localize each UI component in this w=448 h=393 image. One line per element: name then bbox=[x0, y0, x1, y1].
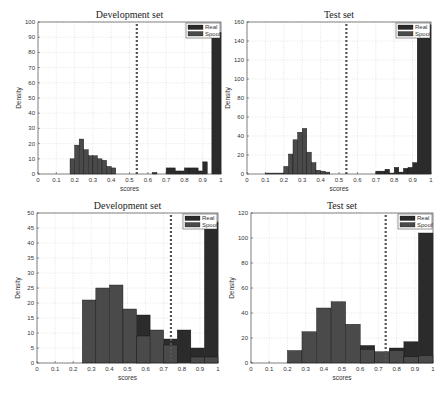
x-tick-label: 0.4 bbox=[316, 177, 325, 183]
histogram-bar bbox=[96, 288, 110, 363]
histogram-bar bbox=[287, 351, 302, 364]
legend-swatch-spoof bbox=[400, 223, 415, 228]
histogram-bar bbox=[403, 168, 408, 174]
legend-label-real: Real bbox=[202, 215, 214, 221]
x-tick-label: 0.4 bbox=[105, 366, 114, 372]
chart-top-right: 00.10.20.30.40.50.60.70.80.9102040608010… bbox=[224, 9, 433, 192]
histogram-bar bbox=[79, 139, 84, 174]
x-tick-label: 0.9 bbox=[408, 177, 417, 183]
x-tick-label: 0.3 bbox=[298, 177, 307, 183]
chart-bottom-left: 00.10.20.30.40.50.60.70.80.9105101520253… bbox=[14, 200, 220, 381]
x-tick-label: 0 bbox=[35, 366, 39, 372]
histogram-bar bbox=[413, 163, 418, 174]
y-tick-label: 140 bbox=[234, 38, 245, 44]
x-tick-label: 0.9 bbox=[199, 177, 208, 183]
x-tick-label: 0.4 bbox=[320, 366, 329, 372]
x-tick-label: 0.4 bbox=[107, 177, 116, 183]
x-tick-label: 0 bbox=[249, 366, 253, 372]
y-tick-label: 70 bbox=[28, 65, 35, 71]
x-tick-label: 0.7 bbox=[160, 366, 169, 372]
x-tick-label: 0.6 bbox=[356, 366, 365, 372]
histogram-bar bbox=[84, 150, 89, 174]
histogram-bar bbox=[307, 152, 312, 174]
y-tick-label: 40 bbox=[27, 240, 34, 246]
x-tick-label: 0.6 bbox=[141, 366, 150, 372]
x-tick-label: 0.1 bbox=[52, 177, 61, 183]
legend-swatch-real bbox=[400, 216, 415, 221]
x-tick-label: 1 bbox=[431, 366, 435, 372]
x-tick-label: 1 bbox=[429, 177, 433, 183]
legend-label-real: Real bbox=[205, 24, 217, 30]
legend-label-real: Real bbox=[417, 215, 429, 221]
x-axis-label: scores bbox=[332, 374, 352, 381]
y-tick-label: 60 bbox=[241, 285, 248, 291]
x-tick-label: 0.9 bbox=[411, 366, 420, 372]
x-tick-label: 0.8 bbox=[178, 366, 187, 372]
y-tick-label: 60 bbox=[28, 80, 35, 86]
histogram-bar bbox=[408, 167, 413, 174]
y-tick-label: 30 bbox=[28, 125, 35, 131]
y-tick-label: 120 bbox=[234, 57, 245, 63]
x-axis-label: scores bbox=[329, 185, 349, 192]
x-tick-label: 0.9 bbox=[196, 366, 205, 372]
histogram-bar bbox=[204, 357, 218, 363]
y-tick-label: 0 bbox=[32, 171, 36, 177]
histogram-bar bbox=[417, 25, 431, 174]
y-axis-label: Density bbox=[228, 276, 236, 298]
histogram-bar bbox=[111, 168, 116, 174]
histogram-bar bbox=[418, 356, 433, 364]
y-tick-label: 35 bbox=[27, 255, 34, 261]
legend-swatch-spoof bbox=[185, 223, 200, 228]
y-tick-label: 45 bbox=[27, 225, 34, 231]
legend-swatch-spoof bbox=[398, 32, 413, 37]
histogram-bar bbox=[212, 33, 221, 174]
x-tick-label: 1 bbox=[219, 177, 223, 183]
y-tick-label: 50 bbox=[27, 210, 34, 216]
histogram-bar bbox=[109, 285, 123, 363]
y-tick-label: 80 bbox=[237, 95, 244, 101]
x-tick-label: 0.8 bbox=[390, 177, 399, 183]
x-tick-label: 0.2 bbox=[283, 366, 292, 372]
y-tick-label: 30 bbox=[27, 270, 34, 276]
y-tick-label: 15 bbox=[27, 315, 34, 321]
histogram-bar bbox=[376, 171, 381, 174]
y-tick-label: 20 bbox=[27, 300, 34, 306]
y-axis-label: Density bbox=[15, 86, 23, 108]
x-tick-label: 1 bbox=[216, 366, 220, 372]
histogram-bar bbox=[360, 349, 375, 363]
x-tick-label: 0.7 bbox=[162, 177, 171, 183]
histogram-bar bbox=[75, 145, 80, 174]
x-tick-label: 0.2 bbox=[70, 177, 79, 183]
histogram-bar bbox=[191, 357, 205, 363]
legend-label-spoof: Spoof bbox=[202, 222, 218, 228]
y-tick-label: 20 bbox=[237, 152, 244, 158]
chart-title: Test set bbox=[324, 9, 354, 20]
y-tick-label: 40 bbox=[241, 310, 248, 316]
x-tick-label: 0.7 bbox=[374, 366, 383, 372]
histogram-bar bbox=[107, 166, 112, 174]
histogram-bar bbox=[317, 308, 332, 363]
y-tick-label: 40 bbox=[237, 133, 244, 139]
histogram-bar bbox=[293, 140, 298, 174]
y-tick-label: 60 bbox=[237, 114, 244, 120]
figure: 00.10.20.30.40.50.60.70.80.9101020304050… bbox=[0, 0, 448, 393]
x-tick-label: 0.5 bbox=[338, 366, 347, 372]
legend-swatch-real bbox=[185, 216, 200, 221]
x-tick-label: 0 bbox=[245, 177, 249, 183]
histogram-bar bbox=[311, 163, 316, 174]
histogram-bar bbox=[150, 330, 164, 363]
x-tick-label: 0.5 bbox=[125, 177, 134, 183]
histogram-bar bbox=[418, 233, 433, 363]
legend-swatch-real bbox=[398, 25, 413, 30]
histogram-bar bbox=[184, 168, 189, 174]
histogram-bar bbox=[82, 300, 96, 363]
histogram-bar bbox=[175, 171, 180, 174]
histogram-bar bbox=[177, 330, 191, 363]
legend-swatch-spoof bbox=[188, 32, 203, 37]
histogram-bar bbox=[298, 132, 303, 174]
histogram-bar bbox=[380, 171, 385, 174]
y-tick-label: 20 bbox=[241, 335, 248, 341]
histogram-bar bbox=[189, 168, 194, 174]
chart-title: Development set bbox=[94, 200, 162, 211]
chart-title: Development set bbox=[96, 9, 164, 20]
